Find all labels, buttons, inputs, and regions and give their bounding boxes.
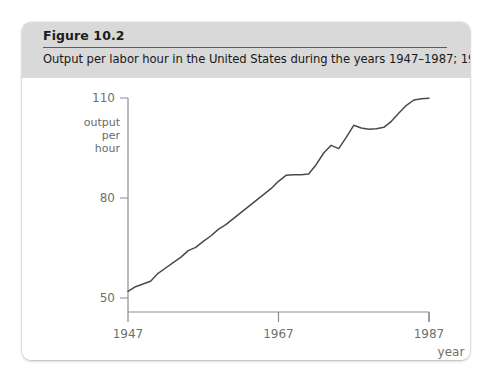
y-tick-label: 50 <box>100 291 115 305</box>
axis-lines <box>128 98 429 322</box>
y-axis-title-line-2: per <box>102 129 121 142</box>
figure-number-label: Figure 10.2 <box>43 28 125 43</box>
y-axis-title-line-1: output <box>84 116 121 129</box>
x-tick-label: 1987 <box>414 327 445 341</box>
data-series-line <box>128 98 429 291</box>
axis-tick-marks <box>120 98 429 322</box>
x-axis-title: year <box>438 345 465 359</box>
plot-area: 5080110 194719671987 output per hour yea… <box>22 78 470 360</box>
y-tick-label: 80 <box>100 191 115 205</box>
y-tick-label: 110 <box>92 91 115 105</box>
y-axis-title-line-3: hour <box>95 142 121 155</box>
header-divider-rule <box>43 47 447 48</box>
x-axis-tick-labels: 194719671987 <box>113 327 445 341</box>
y-axis-title: output per hour <box>84 116 121 155</box>
line-chart: 5080110 194719671987 output per hour yea… <box>22 78 470 360</box>
x-tick-label: 1947 <box>113 327 144 341</box>
chart-axes <box>120 98 429 322</box>
figure-card: Figure 10.2 Output per labor hour in the… <box>22 22 470 360</box>
figure-caption: Output per labor hour in the United Stat… <box>43 52 461 66</box>
x-tick-label: 1967 <box>263 327 294 341</box>
figure-header-band: Figure 10.2 Output per labor hour in the… <box>22 22 470 78</box>
